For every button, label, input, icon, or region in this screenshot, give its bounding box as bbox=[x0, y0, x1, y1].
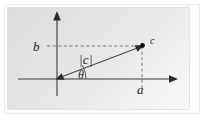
point-c-marker bbox=[140, 43, 145, 48]
figure-root: b a c |c| θ bbox=[0, 0, 206, 121]
point-label-c: c bbox=[150, 36, 154, 46]
magnitude-label: |c| bbox=[79, 53, 93, 66]
c-vector-line bbox=[59, 47, 141, 78]
x-axis-arrowhead-icon bbox=[169, 75, 178, 83]
y-axis-arrowhead-icon bbox=[53, 11, 61, 21]
y-axis-value-label-b: b bbox=[33, 40, 40, 53]
x-axis-value-label-a: a bbox=[137, 83, 144, 96]
vector-diagram-svg bbox=[0, 0, 206, 121]
angle-label-theta: θ bbox=[78, 69, 84, 81]
